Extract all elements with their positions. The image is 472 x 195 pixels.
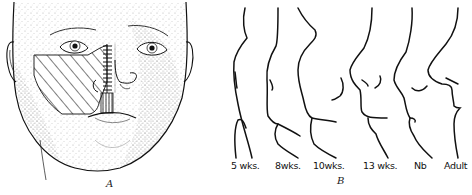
panel-b-profile-series: 5 wks. 8wks. 10wks. 13 wks. Nb Adult B (220, 0, 472, 195)
stage-label-newborn: Nb (414, 160, 427, 171)
panel-a-face-illustration: A (0, 0, 220, 195)
stage-label-adult: Adult (444, 160, 467, 171)
hatched-region-upper-lip (101, 93, 113, 113)
profile-adult (428, 8, 460, 158)
profile-10-wks (298, 8, 343, 158)
face-drawing (0, 0, 220, 195)
stage-label-13-wks: 13 wks. (363, 160, 397, 171)
profile-13-wks (350, 8, 388, 158)
stage-label-10-wks: 10wks. (313, 160, 345, 171)
panel-b-label: B (337, 175, 344, 186)
panel-a-label: A (106, 178, 113, 189)
profile-5-wks (234, 8, 252, 158)
profile-8-wks (267, 8, 300, 158)
stage-label-5-wks: 5 wks. (231, 160, 260, 171)
stage-label-8-wks: 8wks. (275, 160, 301, 171)
profile-newborn (394, 8, 432, 158)
